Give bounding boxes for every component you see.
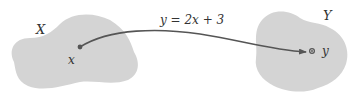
input-point-dot — [78, 45, 83, 50]
output-point-center-icon — [311, 50, 313, 52]
domain-set-blob — [12, 14, 138, 88]
codomain-set-label: Y — [323, 8, 333, 23]
domain-set-label: X — [35, 22, 46, 37]
function-rule-label: y = 2x + 3 — [159, 13, 225, 27]
function-mapping-diagram: X Y x y y = 2x + 3 — [0, 0, 364, 101]
input-point-label: x — [68, 53, 75, 67]
output-point-label: y — [321, 44, 329, 58]
